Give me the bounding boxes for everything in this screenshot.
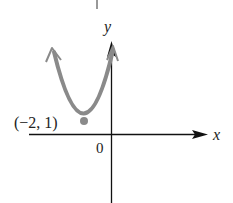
vertex-label: (−2, 1) (14, 114, 58, 132)
x-axis-label: x (212, 126, 220, 143)
origin-label: 0 (96, 140, 104, 156)
x-axis (29, 130, 208, 139)
parabola-graph: y x 0 (−2, 1) (0, 0, 233, 203)
y-axis-label: y (102, 18, 112, 36)
vertex-point (80, 117, 88, 125)
